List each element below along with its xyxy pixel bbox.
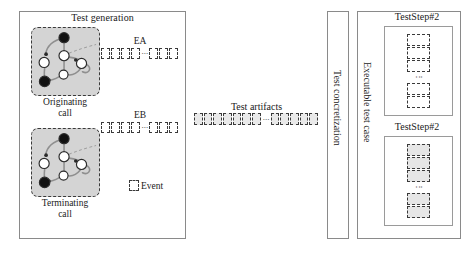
- event-box: [111, 48, 120, 59]
- teststep-item: [407, 157, 430, 169]
- artifact-box: [194, 113, 203, 125]
- event-group-eb-row: ...: [101, 121, 179, 133]
- test-concretization-label: Test concretization: [332, 70, 343, 146]
- event-group-eb-title: EB: [101, 110, 179, 120]
- artifact-box: [271, 113, 280, 125]
- event-box: [159, 122, 168, 133]
- artifact-box: [252, 113, 261, 125]
- event-box: [101, 48, 110, 59]
- teststep-1-column: ⋮: [385, 27, 452, 115]
- artifact-box: [204, 113, 213, 125]
- event-legend-icon: [129, 180, 139, 191]
- terminating-call-state-machine: [31, 128, 100, 197]
- teststep-1-box: ⋮: [384, 26, 453, 116]
- originating-call-label: Originatingcall: [20, 97, 110, 119]
- teststep-item: [407, 206, 430, 218]
- teststep-item: [407, 47, 430, 59]
- event-legend-label: Event: [141, 181, 163, 191]
- teststep-item: [407, 83, 430, 95]
- event-group-ea: EA ...: [101, 36, 179, 59]
- originating-call-graph-svg: [32, 28, 99, 95]
- artifact-box: [280, 113, 289, 125]
- teststep-1-title: TestStep#2: [385, 11, 449, 22]
- teststep-2-column: ⋮: [385, 137, 452, 225]
- event-box: [169, 122, 178, 133]
- teststep-item: [407, 144, 430, 156]
- teststep-1-ellipsis: ⋮: [416, 73, 422, 81]
- terminating-call-text: Terminatingcall: [42, 198, 88, 219]
- artifact-box: [233, 113, 242, 125]
- teststep-2-ellipsis: ⋮: [416, 183, 422, 191]
- artifact-box: [242, 113, 251, 125]
- event-box: [159, 48, 168, 59]
- artifact-box: [309, 113, 318, 125]
- teststep-item: [407, 34, 430, 46]
- artifact-box: [300, 113, 309, 125]
- event-legend: Event: [129, 180, 163, 191]
- event-box: [121, 48, 130, 59]
- teststep-2-title: TestStep#2: [385, 121, 449, 132]
- event-box: [169, 48, 178, 59]
- event-box: [121, 122, 130, 133]
- artifact-box: [290, 113, 299, 125]
- event-group-ea-title: EA: [101, 36, 179, 46]
- test-artifacts-ellipsis: ...: [262, 113, 271, 125]
- terminating-call-graph-svg: [32, 129, 99, 196]
- artifact-box: [213, 113, 222, 125]
- test-artifacts-title: Test artifacts: [194, 101, 319, 112]
- event-group-eb-ellipsis: ...: [141, 121, 150, 133]
- event-group-eb: EB ...: [101, 110, 179, 133]
- teststep-item: [407, 170, 430, 182]
- test-generation-title: Test generation: [19, 12, 186, 23]
- teststep-item: [407, 193, 430, 205]
- test-artifacts-row: ...: [194, 113, 319, 125]
- event-box: [131, 48, 140, 59]
- event-group-ea-row: ...: [101, 47, 179, 59]
- event-box: [149, 122, 158, 133]
- executable-test-case-label: Executable test case: [362, 62, 373, 143]
- terminating-call-label: Terminatingcall: [20, 198, 110, 220]
- teststep-item: [407, 60, 430, 72]
- event-box: [149, 48, 158, 59]
- originating-call-state-machine: [31, 27, 100, 96]
- event-box: [131, 122, 140, 133]
- event-group-ea-ellipsis: ...: [141, 47, 150, 59]
- event-box: [101, 122, 110, 133]
- originating-call-text: Originatingcall: [43, 97, 87, 118]
- event-box: [111, 122, 120, 133]
- artifact-box: [223, 113, 232, 125]
- test-artifacts-group: Test artifacts ...: [194, 101, 319, 125]
- teststep-item: [407, 96, 430, 108]
- teststep-2-box: ⋮: [384, 136, 453, 226]
